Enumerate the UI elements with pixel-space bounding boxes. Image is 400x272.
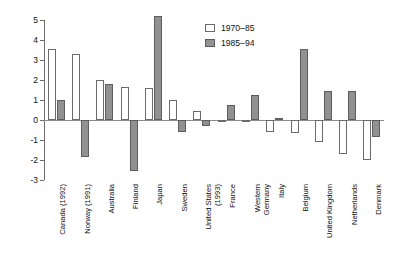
bar: [96, 80, 104, 120]
category-label: Denmark: [375, 184, 384, 264]
category-label: United States (1993): [205, 184, 222, 264]
y-tick: [40, 120, 44, 121]
bar: [202, 120, 210, 126]
bar: [218, 120, 226, 122]
bar: [300, 49, 308, 120]
bar: [105, 84, 113, 120]
bar: [363, 120, 371, 160]
y-tick-label: -3: [30, 176, 38, 185]
category-label: Netherlands: [351, 184, 360, 264]
bar-chart: 543210-1-2-3 Canada (1992)Norway (1991)A…: [0, 0, 400, 272]
legend-swatch-light-icon: [205, 24, 215, 32]
bar: [266, 120, 274, 132]
category-label: Belgium: [302, 184, 311, 264]
y-tick-label: 1: [33, 96, 38, 105]
y-axis-line: [44, 20, 45, 180]
bar: [169, 100, 177, 120]
category-label: Norway (1991): [84, 184, 93, 264]
bar: [372, 120, 380, 137]
bar: [339, 120, 347, 154]
y-tick-label: 5: [33, 16, 38, 25]
bar: [227, 105, 235, 120]
bar: [48, 49, 56, 120]
legend-label: 1985–94: [221, 37, 254, 49]
category-label: United Kingdom: [326, 184, 335, 264]
legend-item: 1985–94: [205, 37, 254, 49]
category-label: Italy: [278, 184, 287, 264]
bar: [178, 120, 186, 132]
y-tick-label: 3: [33, 56, 38, 65]
bar: [275, 118, 283, 120]
y-tick-label: -2: [30, 156, 38, 165]
bar: [72, 54, 80, 120]
bar: [81, 120, 89, 157]
legend-swatch-dark-icon: [205, 39, 215, 47]
bar: [145, 88, 153, 120]
bar: [251, 95, 259, 120]
bar: [130, 120, 138, 171]
bar: [154, 16, 162, 120]
bar: [242, 120, 250, 122]
y-tick: [40, 160, 44, 161]
bar: [193, 111, 201, 120]
bar: [348, 91, 356, 120]
category-label: Finland: [132, 184, 141, 264]
y-tick: [40, 80, 44, 81]
y-tick: [40, 180, 44, 181]
category-label: Western Germany: [254, 184, 271, 264]
category-label: Australia: [108, 184, 117, 264]
bar: [121, 87, 129, 120]
bar: [324, 91, 332, 120]
bar: [57, 100, 65, 120]
y-tick-label: 0: [33, 116, 38, 125]
y-tick-label: 2: [33, 76, 38, 85]
y-tick: [40, 40, 44, 41]
category-label: Japan: [156, 184, 165, 264]
y-tick: [40, 100, 44, 101]
category-label: France: [229, 184, 238, 264]
y-tick: [40, 60, 44, 61]
legend-label: 1970–85: [221, 22, 254, 34]
y-tick-label: 4: [33, 36, 38, 45]
chart-legend: 1970–85 1985–94: [205, 22, 254, 52]
bar: [291, 120, 299, 133]
bar: [315, 120, 323, 142]
legend-item: 1970–85: [205, 22, 254, 34]
zero-baseline: [44, 120, 384, 121]
category-label: Canada (1992): [59, 184, 68, 264]
category-label: Sweden: [181, 184, 190, 264]
y-tick: [40, 20, 44, 21]
y-tick: [40, 140, 44, 141]
y-tick-label: -1: [30, 136, 38, 145]
